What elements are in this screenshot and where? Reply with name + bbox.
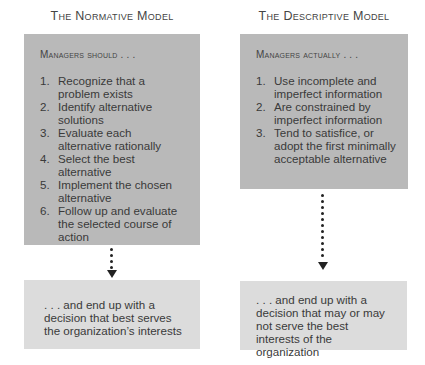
descriptive-model-title: The Descriptive Model: [240, 9, 408, 23]
descriptive-step: 3.Tend to satisfice, or adopt the first …: [256, 126, 398, 165]
normative-model-title: The Normative Model: [24, 9, 200, 23]
arrowhead-icon: [318, 262, 328, 270]
descriptive-dotted-arrow: [318, 192, 328, 274]
descriptive-step: 1.Use incomplete and imperfect informati…: [256, 74, 398, 100]
descriptive-steps-box: Managers actually . . . 1.Use incomplete…: [240, 34, 408, 189]
normative-outcome-box: . . . and end up with a decision that be…: [24, 280, 200, 349]
normative-header: Managers should . . .: [40, 49, 186, 60]
normative-step: 4.Select the best alternative: [40, 152, 186, 178]
normative-steps-list: 1.Recognize that a problem exists 2.Iden…: [40, 74, 186, 243]
normative-steps-box: Managers should . . . 1.Recognize that a…: [24, 34, 200, 245]
normative-step: 3.Evaluate each alternative rationally: [40, 126, 186, 152]
normative-outcome-text: . . . and end up with a decision that be…: [44, 298, 186, 337]
descriptive-header: Managers actually . . .: [256, 49, 398, 60]
arrowhead-icon: [107, 270, 117, 278]
descriptive-outcome-box: . . . and end up with a decision that ma…: [240, 281, 407, 350]
normative-step: 1.Recognize that a problem exists: [40, 74, 186, 100]
descriptive-steps-list: 1.Use incomplete and imperfect informati…: [256, 74, 398, 165]
descriptive-outcome-text: . . . and end up with a decision that ma…: [256, 293, 395, 358]
normative-step: 6.Follow up and evaluate the selected co…: [40, 204, 186, 243]
normative-dotted-arrow: [107, 246, 117, 278]
normative-step: 2.Identify alternative solutions: [40, 100, 186, 126]
normative-step: 5.Implement the chosen alternative: [40, 178, 186, 204]
descriptive-step: 2.Are constrained by imperfect informati…: [256, 100, 398, 126]
